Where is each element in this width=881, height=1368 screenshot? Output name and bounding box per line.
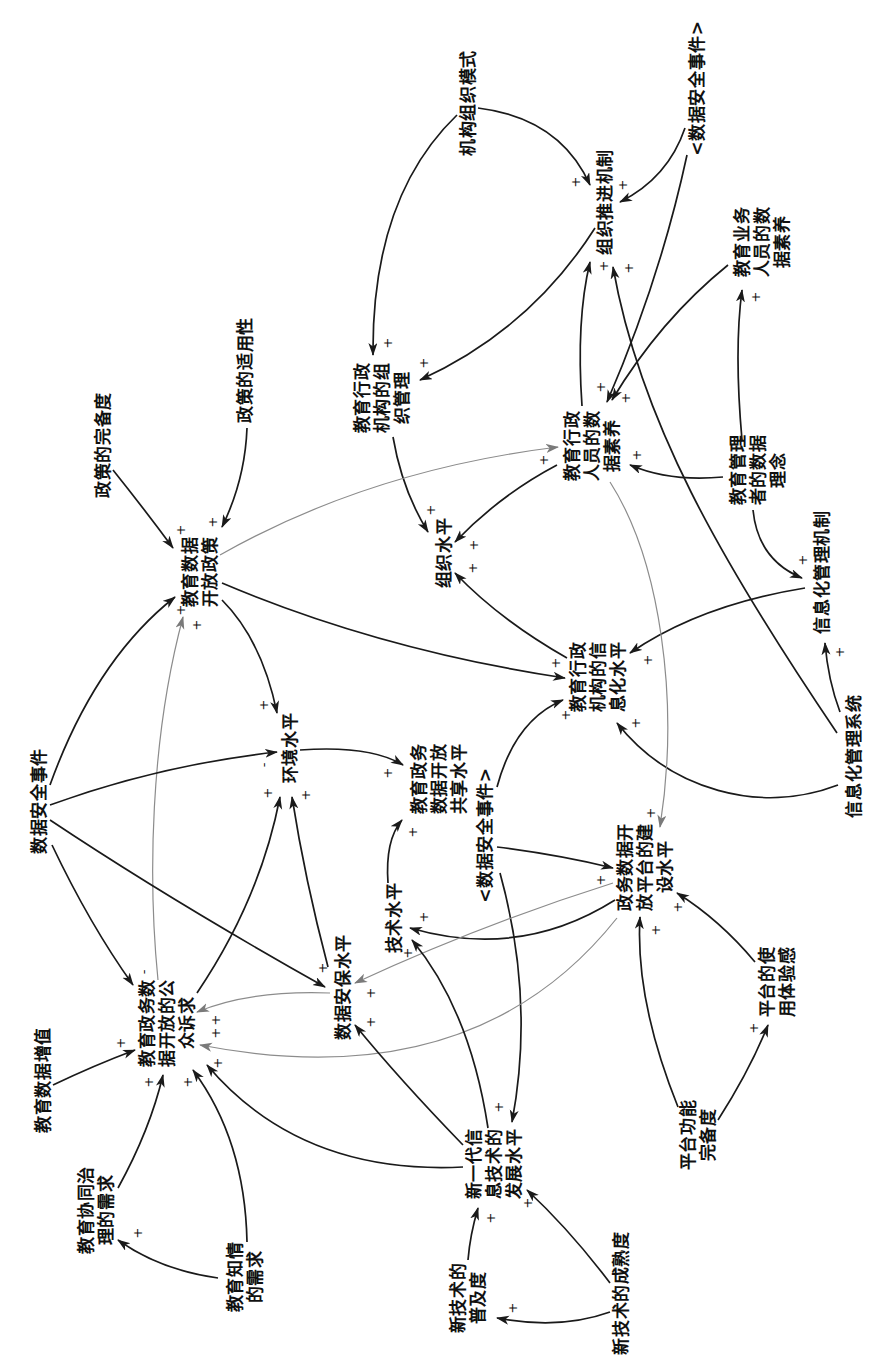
polarity-sign: +: [648, 925, 663, 936]
svg-text:政策的适用性: 政策的适用性: [235, 317, 255, 423]
polarity-sign: +: [629, 450, 644, 461]
polarity-sign: +: [618, 393, 633, 404]
node-edu-admin-staff-data-literacy: 教育行政人员的数据素养: [562, 410, 622, 482]
polarity-sign: +: [130, 1228, 145, 1239]
node-edu-data-open-policy: 教育数据开放政策: [180, 536, 220, 608]
polarity-sign: +: [670, 902, 685, 913]
polarity-sign: +: [795, 555, 810, 566]
svg-text:教育数据开放政策: 教育数据开放政策: [180, 536, 220, 608]
polarity-sign: +: [260, 788, 275, 799]
polarity-sign: +: [548, 658, 563, 669]
svg-text:新一代信息技术的发展水平: 新一代信息技术的发展水平: [464, 1129, 524, 1200]
svg-text:数据安保水平: 数据安保水平: [333, 934, 353, 1040]
polarity-sign: +: [363, 1017, 378, 1028]
polarity-sign: +: [491, 1102, 506, 1113]
svg-text:新技术的成熟度: 新技术的成熟度: [611, 1231, 631, 1355]
polarity-sign: +: [256, 700, 271, 711]
svg-text:教育数据增值: 教育数据增值: [33, 1027, 53, 1134]
polarity-sign: +: [628, 718, 643, 729]
polarity-sign: +: [180, 1077, 195, 1088]
svg-text:平台功能完备度: 平台功能完备度: [678, 1100, 718, 1170]
node-new-tech-popularity: 新技术的普及度: [448, 1263, 488, 1333]
node-edu-data-value-added: 教育数据增值: [33, 1027, 53, 1134]
svg-text:教育业务人员的数据素养: 教育业务人员的数据素养: [732, 206, 792, 278]
node-org-level: 组织水平: [434, 518, 454, 588]
node-policy-completeness: 政策的完备度: [93, 392, 113, 498]
node-new-gen-it-development-level: 新一代信息技术的发展水平: [464, 1129, 524, 1200]
svg-text:组织水平: 组织水平: [434, 518, 454, 588]
polarity-sign: +: [416, 912, 431, 923]
node-edu-right-to-know-demand: 教育知情的需求: [225, 1242, 265, 1313]
polarity-sign: +: [596, 261, 611, 272]
polarity-sign: +: [208, 1015, 223, 1026]
polarity-sign: +: [205, 517, 220, 528]
node-institutional-org-mode: 机构组织模式: [458, 50, 478, 156]
polarity-sign: +: [643, 808, 658, 819]
svg-text:数据安全事件: 数据安全事件: [29, 748, 49, 854]
polarity-sign: +: [640, 655, 655, 666]
causal-loop-diagram: + + + + + + + + + + + + + + + + + + + + …: [0, 0, 881, 1368]
canvas-background: [0, 0, 881, 1368]
polarity-sign: +: [505, 1303, 520, 1314]
svg-text:平台的使用体验感: 平台的使用体验感: [757, 946, 797, 1017]
svg-text:组织推进机制: 组织推进机制: [595, 149, 615, 255]
polarity-sign: +: [423, 505, 438, 516]
polarity-sign: +: [416, 358, 431, 369]
polarity-sign: +: [748, 292, 763, 303]
svg-text:教育行政机构的信息化水平: 教育行政机构的信息化水平: [568, 641, 628, 713]
node-data-security-protection-level: 数据安保水平: [333, 934, 353, 1040]
svg-text:新技术的普及度: 新技术的普及度: [448, 1263, 488, 1333]
svg-text:政策的完备度: 政策的完备度: [93, 392, 113, 498]
svg-text:教育行政机构的组织管理: 教育行政机构的组织管理: [352, 362, 412, 434]
polarity-sign: +: [405, 827, 420, 838]
polarity-sign: +: [189, 620, 204, 631]
polarity-sign: +: [380, 768, 395, 779]
polarity-sign: +: [208, 1028, 223, 1039]
node-edu-business-staff-data-literacy: 教育业务人员的数据素养: [732, 206, 792, 278]
svg-text:教育协同治理的需求: 教育协同治理的需求: [76, 1166, 116, 1255]
node-new-tech-maturity: 新技术的成熟度: [611, 1231, 631, 1355]
polarity-sign: +: [536, 455, 551, 466]
svg-text:教育知情的需求: 教育知情的需求: [225, 1242, 265, 1313]
node-it-management-mechanism: 信息化管理机制: [812, 510, 832, 633]
polarity-sign: +: [568, 177, 583, 188]
polarity-sign: +: [363, 988, 378, 999]
node-platform-function-completeness: 平台功能完备度: [678, 1100, 718, 1170]
polarity-sign: +: [746, 1023, 761, 1034]
polarity-sign: +: [380, 338, 395, 349]
polarity-sign: -: [256, 762, 271, 767]
svg-text:机构组织模式: 机构组织模式: [458, 50, 478, 156]
svg-text:信息化管理系统: 信息化管理系统: [844, 694, 864, 817]
node-data-security-incident: 数据安全事件: [29, 748, 49, 854]
polarity-sign: +: [621, 263, 636, 274]
polarity-sign: +: [113, 1038, 128, 1049]
polarity-sign: -: [136, 969, 151, 974]
svg-text:<数据安全事件>: <数据安全事件>: [475, 767, 495, 902]
node-technology-level: 技术水平: [384, 883, 404, 953]
node-environment-level: 环境水平: [280, 713, 300, 783]
svg-text:<数据安全事件>: <数据安全事件>: [687, 20, 707, 155]
svg-text:信息化管理机制: 信息化管理机制: [812, 510, 832, 633]
node-org-promotion-mechanism: 组织推进机制: [595, 149, 615, 255]
polarity-sign: +: [465, 563, 480, 574]
polarity-sign: +: [173, 525, 188, 536]
polarity-sign: +: [141, 1077, 156, 1088]
polarity-sign: +: [593, 382, 608, 393]
node-platform-user-experience: 平台的使用体验感: [757, 946, 797, 1017]
node-data-security-incident-shadow-top: <数据安全事件>: [687, 20, 707, 155]
polarity-sign: +: [298, 790, 313, 801]
node-data-security-incident-shadow-mid: <数据安全事件>: [475, 767, 495, 902]
svg-text:环境水平: 环境水平: [280, 713, 300, 783]
polarity-sign: +: [483, 1213, 498, 1224]
polarity-sign: +: [210, 1058, 225, 1069]
node-policy-applicability: 政策的适用性: [235, 317, 255, 423]
node-edu-admin-informatization-level: 教育行政机构的信息化水平: [568, 641, 628, 713]
polarity-sign: +: [832, 647, 847, 658]
polarity-sign: +: [466, 540, 481, 551]
svg-text:教育行政人员的数据素养: 教育行政人员的数据素养: [562, 410, 622, 482]
svg-text:教育政务数据开放共享水平: 教育政务数据开放共享水平: [409, 743, 469, 815]
node-edu-admin-org-management: 教育行政机构的组织管理: [352, 362, 412, 434]
polarity-sign: +: [615, 180, 630, 191]
node-edu-gov-data-open-sharing-level: 教育政务数据开放共享水平: [409, 743, 469, 815]
node-it-management-system: 信息化管理系统: [844, 694, 864, 817]
